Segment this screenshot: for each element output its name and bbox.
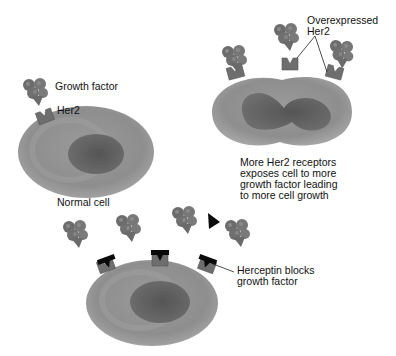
growth-factor-icon xyxy=(222,45,247,73)
growth-factor-icon xyxy=(23,78,48,106)
leader-line xyxy=(297,36,327,72)
her2-label: Her2 xyxy=(57,105,80,116)
overexpressed-her2-label: Overexpressed Her2 xyxy=(307,15,378,37)
overexpressed-caption: More Her2 receptors exposes cell to more… xyxy=(240,157,337,201)
growth-factor-icon xyxy=(116,214,141,242)
growth-factor-label: Growth factor xyxy=(55,81,118,92)
growth-factor-icon xyxy=(172,206,197,234)
growth-factor-icon xyxy=(225,219,250,247)
herceptin-cell xyxy=(86,260,218,346)
leader-line xyxy=(213,264,234,272)
her2-receptor-icon xyxy=(282,58,298,70)
her2-receptor-icon xyxy=(325,64,344,80)
herceptin-icon xyxy=(208,213,220,229)
overexpressed-cell xyxy=(212,77,352,145)
growth-factor-icon xyxy=(63,220,88,248)
herceptin-label: Herceptin blocks growth factor xyxy=(237,265,315,287)
growth-factor-icon xyxy=(274,23,299,51)
nucleus xyxy=(68,134,124,174)
normal-cell-caption: Normal cell xyxy=(57,197,110,208)
nucleus xyxy=(130,281,190,323)
